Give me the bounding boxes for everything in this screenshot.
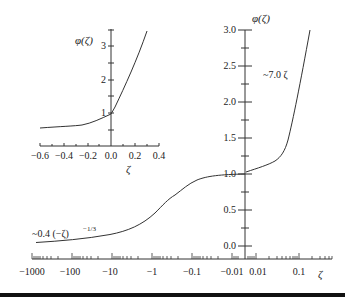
main-x-tick-label: 0.1 <box>293 266 306 277</box>
inset-y-tick-label: 3 <box>101 40 106 51</box>
main-y-tick-label: 1.5 <box>224 132 237 143</box>
main-y-tick-label: 2.0 <box>224 96 237 107</box>
inset-x-tick-label: −0.6 <box>31 150 49 161</box>
main-y-tick-label: 2.5 <box>224 60 237 71</box>
main-y-tick-label: 3.0 <box>224 24 237 35</box>
main-x-tick-label: −1 <box>147 266 158 277</box>
annotation-power-law-base: ~0.4 (−ζ) <box>32 228 69 240</box>
inset-y-tick-label: 2 <box>101 74 106 85</box>
main-y-tick-labels: 0.0 0.5 1.0 1.5 2.0 2.5 3.0 <box>224 24 237 251</box>
main-y-tick-label: 0.5 <box>224 204 237 215</box>
inset-plot: −0.6 −0.4 −0.2 0.0 0.2 0.4 1 2 3 φ(ζ) ζ <box>31 29 165 176</box>
inset-x-tick-label: −0.4 <box>55 150 73 161</box>
main-y-tick-label: 1.0 <box>224 168 237 179</box>
inset-x-tick-label: 0.4 <box>153 150 166 161</box>
main-x-ticks <box>32 253 332 259</box>
main-x-tick-label: −0.1 <box>183 266 201 277</box>
annotation-linear: ~7.0 ζ <box>263 69 288 81</box>
main-curve-positive <box>246 30 310 172</box>
main-x-tick-label: −10 <box>102 266 118 277</box>
inset-x-tick-label: 0.2 <box>129 150 142 161</box>
figure: −0.6 −0.4 −0.2 0.0 0.2 0.4 1 2 3 φ(ζ) ζ <box>0 0 345 300</box>
main-y-tick-label: 0.0 <box>224 240 237 251</box>
main-x-tick-labels: −1000 −100 −10 −1 −0.1 −0.01 0.01 0.1 <box>19 266 305 277</box>
inset-x-tick-label: −0.2 <box>79 150 97 161</box>
bottom-rule <box>0 293 345 297</box>
main-x-tick-label: 0.01 <box>249 266 267 277</box>
main-x-tick-label: −100 <box>60 266 81 277</box>
inset-y-tick-labels: 1 2 3 <box>101 40 106 118</box>
inset-x-tick-label: 0.0 <box>105 150 118 161</box>
main-y-label: φ(ζ) <box>252 12 270 25</box>
inset-x-label: ζ <box>126 163 132 176</box>
main-x-label: ζ <box>318 268 324 281</box>
annotation-power-law-exponent: −1/3 <box>83 225 96 233</box>
inset-x-tick-labels: −0.6 −0.4 −0.2 0.0 0.2 0.4 <box>31 150 165 161</box>
main-x-tick-label: −0.01 <box>220 266 243 277</box>
main-x-tick-label: −1000 <box>19 266 45 277</box>
inset-curve <box>40 31 147 128</box>
inset-y-label: φ(ζ) <box>75 34 93 47</box>
